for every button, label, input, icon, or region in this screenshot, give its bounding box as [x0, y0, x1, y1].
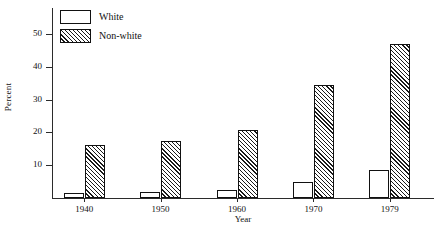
bar-white-1960	[217, 190, 237, 198]
legend-item-white: White	[60, 7, 142, 26]
legend-label-non-white: Non-white	[99, 30, 142, 41]
y-tick-label: 20	[33, 126, 42, 136]
x-tick	[84, 198, 85, 202]
x-tick	[237, 198, 238, 202]
bar-chart-figure: Percent 1020304050 19401950196019701979 …	[0, 0, 440, 233]
y-tick: 20	[46, 132, 53, 133]
bar-white-1970	[293, 182, 313, 198]
bar-non-white-1970	[314, 85, 334, 198]
x-tick	[313, 198, 314, 202]
y-axis-line	[52, 8, 53, 198]
y-tick-label: 50	[33, 28, 42, 38]
x-tick	[390, 198, 391, 202]
x-tick-label: 1950	[138, 204, 184, 214]
y-tick-label: 40	[33, 61, 42, 71]
y-tick: 40	[46, 67, 53, 68]
y-tick-label: 30	[33, 94, 42, 104]
chart-legend: White Non-white	[60, 7, 142, 45]
bar-non-white-1940	[85, 145, 105, 198]
bar-white-1950	[140, 192, 160, 198]
y-axis-title: Percent	[3, 67, 13, 127]
x-axis-title: Year	[52, 214, 434, 224]
legend-label-white: White	[99, 11, 123, 22]
bar-non-white-1979	[390, 44, 410, 198]
bar-white-1979	[369, 170, 389, 199]
y-tick: 30	[46, 100, 53, 101]
x-axis-line	[52, 198, 434, 199]
bar-white-1940	[64, 193, 84, 198]
y-tick: 10	[46, 165, 53, 166]
hatched-box-swatch	[60, 29, 91, 43]
y-tick-label: 10	[33, 159, 42, 169]
legend-item-non-white: Non-white	[60, 26, 142, 45]
bar-non-white-1950	[161, 141, 181, 198]
x-tick-label: 1970	[290, 204, 336, 214]
x-tick-label: 1940	[61, 204, 107, 214]
x-tick-label: 1960	[214, 204, 260, 214]
y-tick: 50	[46, 34, 53, 35]
bar-non-white-1960	[238, 130, 258, 198]
x-tick-label: 1979	[367, 204, 413, 214]
x-tick	[161, 198, 162, 202]
empty-box-swatch	[60, 10, 91, 24]
